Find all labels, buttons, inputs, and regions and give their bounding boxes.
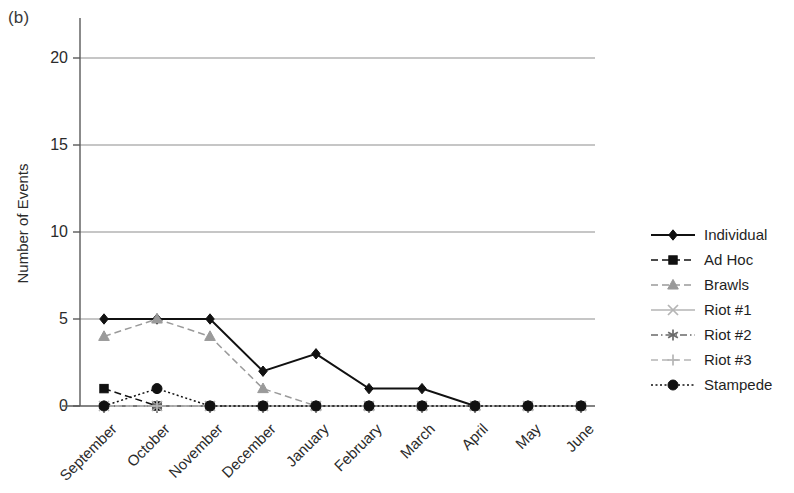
circle-marker-sample: [648, 374, 698, 396]
diamond-marker-sample: [648, 224, 698, 246]
triangle-marker-sample: [648, 274, 698, 296]
circle-marker: [311, 401, 321, 411]
diamond-marker: [418, 383, 427, 393]
series-line: [104, 319, 581, 406]
circle-marker: [668, 380, 678, 390]
legend-label: Ad Hoc: [698, 251, 753, 268]
circle-marker: [205, 401, 215, 411]
square-marker: [669, 255, 677, 263]
gridline-group: [80, 58, 595, 319]
diamond-marker: [100, 314, 109, 324]
data-series-group: [98, 313, 586, 411]
triangle-marker: [668, 279, 679, 289]
plus-marker: [667, 354, 678, 365]
axis-line-group: [62, 18, 595, 406]
legend-label: Individual: [698, 226, 767, 243]
circle-marker: [523, 401, 533, 411]
chart-legend: IndividualAd HocBrawlsRiot #1Riot #2Riot…: [648, 222, 794, 397]
series-individual: [100, 314, 586, 411]
legend-item-riot-1[interactable]: Riot #1: [648, 297, 794, 322]
circle-marker: [258, 401, 268, 411]
legend-item-brawls[interactable]: Brawls: [648, 272, 794, 297]
cross-x-marker-sample: [648, 299, 698, 321]
diamond-marker: [365, 383, 374, 393]
circle-marker: [576, 401, 586, 411]
legend-item-riot-3[interactable]: Riot #3: [648, 347, 794, 372]
circle-marker: [364, 401, 374, 411]
legend-label: Riot #2: [698, 326, 752, 343]
tick-mark-group: [73, 58, 581, 413]
diamond-marker: [669, 229, 678, 239]
series-line: [104, 389, 581, 406]
legend-label: Riot #3: [698, 351, 752, 368]
asterisk-marker-sample: [648, 324, 698, 346]
series-brawls: [99, 313, 587, 410]
series-line: [104, 319, 581, 406]
legend-item-stampede[interactable]: Stampede: [648, 372, 794, 397]
legend-item-ad-hoc[interactable]: Ad Hoc: [648, 247, 794, 272]
circle-marker: [417, 401, 427, 411]
legend-label: Stampede: [698, 376, 772, 393]
legend-label: Riot #1: [698, 301, 752, 318]
plus-marker-sample: [648, 349, 698, 371]
series-line: [104, 389, 581, 406]
circle-marker: [99, 401, 109, 411]
legend-item-individual[interactable]: Individual: [648, 222, 794, 247]
diamond-marker: [312, 349, 321, 359]
square-marker-sample: [648, 249, 698, 271]
circle-marker: [152, 384, 162, 394]
legend-label: Brawls: [698, 276, 749, 293]
figure-panel-b: (b) Number of Events 05101520 SeptemberO…: [0, 0, 794, 493]
square-marker: [100, 384, 108, 392]
circle-marker: [470, 401, 480, 411]
triangle-marker: [205, 331, 216, 341]
legend-item-riot-2[interactable]: Riot #2: [648, 322, 794, 347]
